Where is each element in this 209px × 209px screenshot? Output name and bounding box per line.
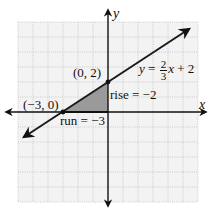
equation-label: y = 23x + 2 — [139, 59, 194, 82]
y-axis-label: y — [113, 7, 119, 21]
point-0-2 — [106, 80, 111, 85]
point-label-neg3-0: (−3, 0) — [23, 98, 59, 111]
point-label-0-2: (0, 2) — [73, 66, 101, 79]
fraction-denominator: 3 — [160, 71, 168, 82]
x-axis-label: x — [199, 98, 205, 112]
rise-label: rise = −2 — [110, 88, 156, 101]
run-label: run = −3 — [60, 114, 105, 127]
equation-rest: + 2 — [174, 61, 194, 76]
equation-fraction: 23 — [160, 59, 168, 82]
equation-equals: = — [145, 61, 159, 76]
